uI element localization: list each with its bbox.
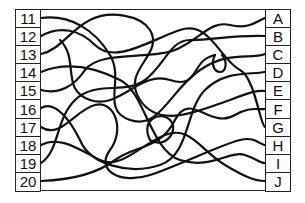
line-loop — [213, 55, 226, 72]
label-c: C — [266, 46, 290, 64]
label-16: 16 — [16, 100, 40, 118]
label-19: 19 — [16, 155, 40, 173]
line-tracing-puzzle: 11 12 13 14 15 16 17 18 19 20 A B C D E … — [0, 0, 305, 203]
right-letter-column: A B C D E F G H I J — [265, 9, 291, 192]
label-f: F — [266, 100, 290, 118]
left-number-column: 11 12 13 14 15 16 17 18 19 20 — [15, 9, 41, 192]
label-18: 18 — [16, 137, 40, 155]
label-d: D — [266, 64, 290, 82]
label-h: H — [266, 137, 290, 155]
label-j: J — [266, 173, 290, 191]
label-e: E — [266, 82, 290, 100]
label-11: 11 — [16, 10, 40, 28]
label-20: 20 — [16, 173, 40, 191]
label-b: B — [266, 28, 290, 46]
label-g: G — [266, 119, 290, 137]
label-i: I — [266, 155, 290, 173]
tangled-lines — [0, 0, 305, 203]
label-a: A — [266, 10, 290, 28]
label-13: 13 — [16, 46, 40, 64]
label-17: 17 — [16, 119, 40, 137]
label-12: 12 — [16, 28, 40, 46]
label-14: 14 — [16, 64, 40, 82]
label-15: 15 — [16, 82, 40, 100]
